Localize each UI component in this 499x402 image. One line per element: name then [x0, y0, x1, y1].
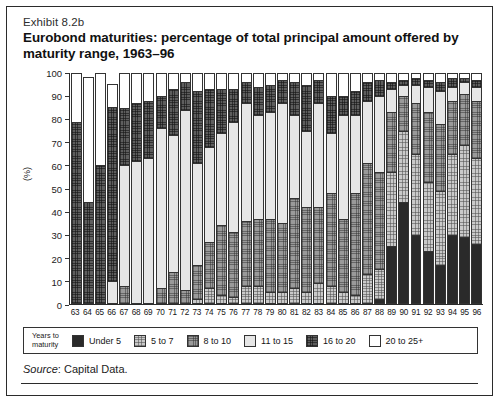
bar-segment	[277, 103, 288, 223]
legend-label: Under 5	[89, 336, 121, 346]
bar-segment	[411, 78, 422, 85]
bar-segment	[386, 112, 397, 172]
bar-93	[435, 73, 446, 304]
bar-segment	[398, 96, 409, 131]
bar-segment	[411, 154, 422, 235]
bar-segment	[180, 110, 191, 290]
bar-78	[253, 73, 264, 304]
bar-segment	[471, 73, 482, 80]
bar-segment	[289, 198, 300, 288]
bar-segment	[265, 292, 276, 304]
bar-segment	[71, 73, 82, 122]
bottom-rule	[21, 383, 478, 384]
x-axis-tick-84: 84	[325, 306, 336, 320]
bar-segment	[374, 73, 385, 80]
x-axis-tick-83: 83	[313, 306, 324, 320]
bar-83	[313, 73, 324, 304]
source-note: Source: Capital Data.	[23, 363, 128, 375]
legend-swatch-icon	[369, 335, 381, 347]
x-axis-tick-64: 64	[82, 306, 93, 320]
legend-swatch-icon	[72, 335, 84, 347]
bar-segment	[350, 193, 361, 295]
bar-segment	[313, 207, 324, 283]
bar-segment	[241, 73, 252, 82]
bar-66	[107, 73, 118, 304]
legend-swatch-icon	[134, 335, 146, 347]
bar-segment	[338, 115, 349, 219]
bar-segment	[423, 251, 434, 304]
bar-segment	[168, 135, 179, 271]
bar-segment	[362, 82, 373, 100]
bar-segment	[265, 73, 276, 85]
bar-segment	[471, 101, 482, 159]
x-axis-tick-63: 63	[70, 306, 81, 320]
legend-label: 11 to 15	[261, 336, 293, 346]
bar-segment	[131, 161, 142, 304]
y-axis-tick: 100	[46, 68, 62, 79]
bar-segment	[362, 101, 373, 163]
bar-72	[180, 73, 191, 304]
bar-segment	[374, 269, 385, 299]
y-axis-tick: 20	[51, 253, 62, 264]
x-axis-tick-76: 76	[228, 306, 239, 320]
bar-94	[447, 73, 458, 304]
x-axis-tick-87: 87	[362, 306, 373, 320]
bar-segment	[192, 265, 203, 300]
bar-segment	[374, 80, 385, 96]
bar-segment	[435, 82, 446, 91]
bar-segment	[289, 288, 300, 304]
x-axis-tick-96: 96	[471, 306, 482, 320]
bar-segment	[107, 84, 118, 107]
x-axis-tick-71: 71	[167, 306, 178, 320]
bar-segment	[362, 73, 373, 82]
plot-bars	[69, 73, 483, 305]
bar-82	[301, 73, 312, 304]
bar-segment	[374, 172, 385, 269]
bar-segment	[435, 124, 446, 191]
bar-segment	[241, 286, 252, 304]
legend-item-5-to-7: 5 to 7	[134, 335, 184, 347]
bar-segment	[119, 73, 130, 108]
bar-segment	[313, 283, 324, 304]
bar-80	[277, 73, 288, 304]
source-label: Source	[23, 363, 58, 375]
y-axis-tick: 70	[51, 137, 62, 148]
bar-segment	[253, 286, 264, 304]
bar-segment	[216, 89, 227, 133]
bar-segment	[192, 299, 203, 304]
x-axis-tick-94: 94	[447, 306, 458, 320]
x-axis: 6364656667686970717273747576777879808182…	[69, 306, 483, 320]
bar-segment	[398, 202, 409, 304]
y-axis-tick: 40	[51, 207, 62, 218]
bar-segment	[180, 290, 191, 304]
bar-segment	[301, 207, 312, 292]
bar-segment	[362, 274, 373, 304]
bar-segment	[398, 73, 409, 80]
bar-segment	[447, 101, 458, 154]
x-axis-tick-67: 67	[118, 306, 129, 320]
x-axis-tick-80: 80	[277, 306, 288, 320]
x-axis-tick-86: 86	[350, 306, 361, 320]
bar-segment	[386, 73, 397, 82]
page-title: Eurobond maturities: percentage of total…	[23, 30, 478, 61]
y-axis: 0102030405060708090100	[37, 73, 69, 305]
x-axis-tick-79: 79	[264, 306, 275, 320]
bar-70	[156, 73, 167, 304]
bar-segment	[192, 73, 203, 91]
bar-segment	[277, 223, 288, 292]
x-axis-tick-95: 95	[459, 306, 470, 320]
bar-76	[228, 73, 239, 304]
bar-segment	[301, 73, 312, 85]
bar-87	[362, 73, 373, 304]
bar-89	[386, 73, 397, 304]
bar-segment	[228, 232, 239, 297]
bar-segment	[156, 73, 167, 96]
x-axis-tick-78: 78	[252, 306, 263, 320]
bar-81	[289, 73, 300, 304]
bar-segment	[350, 115, 361, 194]
bar-segment	[253, 219, 264, 286]
bar-segment	[459, 237, 470, 304]
legend-label: 16 to 20	[323, 336, 356, 346]
bar-73	[192, 73, 203, 304]
bar-segment	[301, 292, 312, 304]
